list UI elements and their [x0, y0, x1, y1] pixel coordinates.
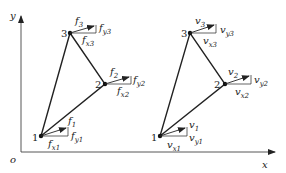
velocity-label: v3	[195, 15, 206, 29]
left-node-1: 1 f1 fy1 fx1	[32, 115, 83, 152]
vy-label: vy3	[220, 24, 235, 38]
vx-label: vx2	[235, 86, 250, 100]
x-axis-label: x	[262, 159, 268, 170]
fx-label: fx3	[81, 34, 95, 48]
origin-label: o	[10, 154, 16, 165]
left-triangle: 1 f1 fy1 fx1 2 f2 fy2 fx2 3 f3 fy3 fx3	[32, 15, 146, 152]
vx-label: vx3	[203, 35, 218, 49]
vy-label: vy2	[254, 74, 269, 88]
fy-label: fy3	[98, 22, 112, 36]
velocity-label: v1	[189, 119, 199, 133]
force-label: f1	[67, 115, 76, 129]
fy-label: fy2	[132, 74, 146, 88]
force-label: f3	[74, 15, 84, 29]
fy-label: fy1	[70, 130, 83, 144]
node-3-label: 3	[181, 28, 187, 39]
vx-label: vx1	[167, 139, 181, 153]
right-node-2: 2 v2 vy2 vx2	[214, 66, 269, 100]
fx-label: fx1	[47, 138, 60, 152]
node-2-label: 2	[214, 79, 220, 90]
vy-label: vy1	[189, 132, 203, 146]
diagram-svg: y o x 1 f1 fy1 fx1 2 f2 fy2 fx2	[0, 0, 286, 173]
node-2-label: 2	[95, 79, 101, 90]
y-axis-label: y	[9, 10, 16, 21]
fx-label: fx2	[116, 85, 130, 99]
node-1-label: 1	[151, 132, 157, 143]
velocity-label: v2	[228, 66, 239, 80]
force-arrow-icon	[41, 128, 66, 136]
left-node-2: 2 f2 fy2 fx2	[95, 66, 146, 99]
force-label: f2	[109, 66, 119, 80]
node-3-label: 3	[61, 28, 67, 39]
velocity-arrow-icon	[160, 128, 185, 136]
node-1-label: 1	[32, 132, 38, 143]
right-triangle: 1 v1 vy1 vx1 2 v2 vy2 vx2 3 v3 vy3 vx3	[151, 15, 269, 153]
triangle-element-diagram: y o x 1 f1 fy1 fx1 2 f2 fy2 fx2	[0, 0, 286, 173]
